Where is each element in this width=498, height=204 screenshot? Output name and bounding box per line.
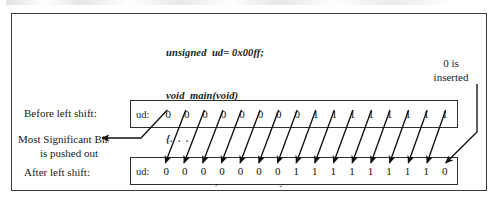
bit-before-11: 1: [362, 109, 380, 120]
register-after-bits: 0000000111111110: [157, 158, 454, 184]
label-zero-inserted-line2: inserted: [418, 71, 484, 85]
label-msb-line2: is pushed out: [40, 147, 98, 160]
code-line-open-brace: {. . .: [166, 132, 318, 146]
bit-after-12: 1: [380, 166, 399, 177]
label-after-left-shift: After left shift:: [24, 166, 90, 179]
register-after-shift: ud: 0000000111111110: [130, 157, 458, 185]
bit-before-15: 1: [436, 109, 454, 120]
label-before-left-shift: Before left shift:: [24, 107, 97, 120]
bit-before-12: 1: [380, 109, 398, 120]
label-msb-line1: Most Significant Bit: [18, 133, 108, 146]
bit-after-0: 0: [157, 166, 176, 177]
label-zero-inserted: 0 is inserted: [418, 57, 484, 84]
bit-after-9: 1: [324, 166, 343, 177]
bit-before-10: 1: [343, 109, 361, 120]
register-before-shift: ud: 0000000011111111: [130, 100, 458, 128]
bit-before-9: 1: [325, 109, 343, 120]
bit-before-13: 1: [399, 109, 417, 120]
bit-after-4: 0: [231, 166, 250, 177]
bit-before-2: 0: [196, 109, 214, 120]
bit-after-3: 0: [213, 166, 232, 177]
bit-before-7: 0: [288, 109, 306, 120]
register-before-bits: 0000000011111111: [159, 101, 454, 127]
bit-after-6: 0: [268, 166, 287, 177]
code-line-declaration: unsigned ud= 0x00ff;: [166, 46, 318, 60]
bit-after-11: 1: [361, 166, 380, 177]
bit-after-5: 0: [250, 166, 269, 177]
scan-artifact: [6, 0, 476, 5]
bit-before-6: 0: [270, 109, 288, 120]
bit-before-8: 1: [307, 109, 325, 120]
label-zero-inserted-line1: 0 is: [418, 57, 484, 71]
bit-before-5: 0: [251, 109, 269, 120]
bit-after-10: 1: [343, 166, 362, 177]
bit-before-0: 0: [159, 109, 177, 120]
bit-after-13: 1: [398, 166, 417, 177]
bit-after-7: 1: [287, 166, 306, 177]
bit-after-1: 0: [176, 166, 195, 177]
register-after-name: ud:: [136, 166, 149, 177]
bit-before-4: 0: [233, 109, 251, 120]
shift-left-diagram: unsigned ud= 0x00ff; void main(void) {. …: [0, 0, 498, 204]
bit-after-2: 0: [194, 166, 213, 177]
bit-after-15: 0: [435, 166, 454, 177]
ellipsis: . . .: [170, 133, 190, 144]
bit-before-1: 0: [177, 109, 195, 120]
bit-after-14: 1: [417, 166, 436, 177]
bit-before-14: 1: [417, 109, 435, 120]
bit-before-3: 0: [214, 109, 232, 120]
register-before-name: ud:: [136, 109, 149, 120]
bit-after-8: 1: [306, 166, 325, 177]
